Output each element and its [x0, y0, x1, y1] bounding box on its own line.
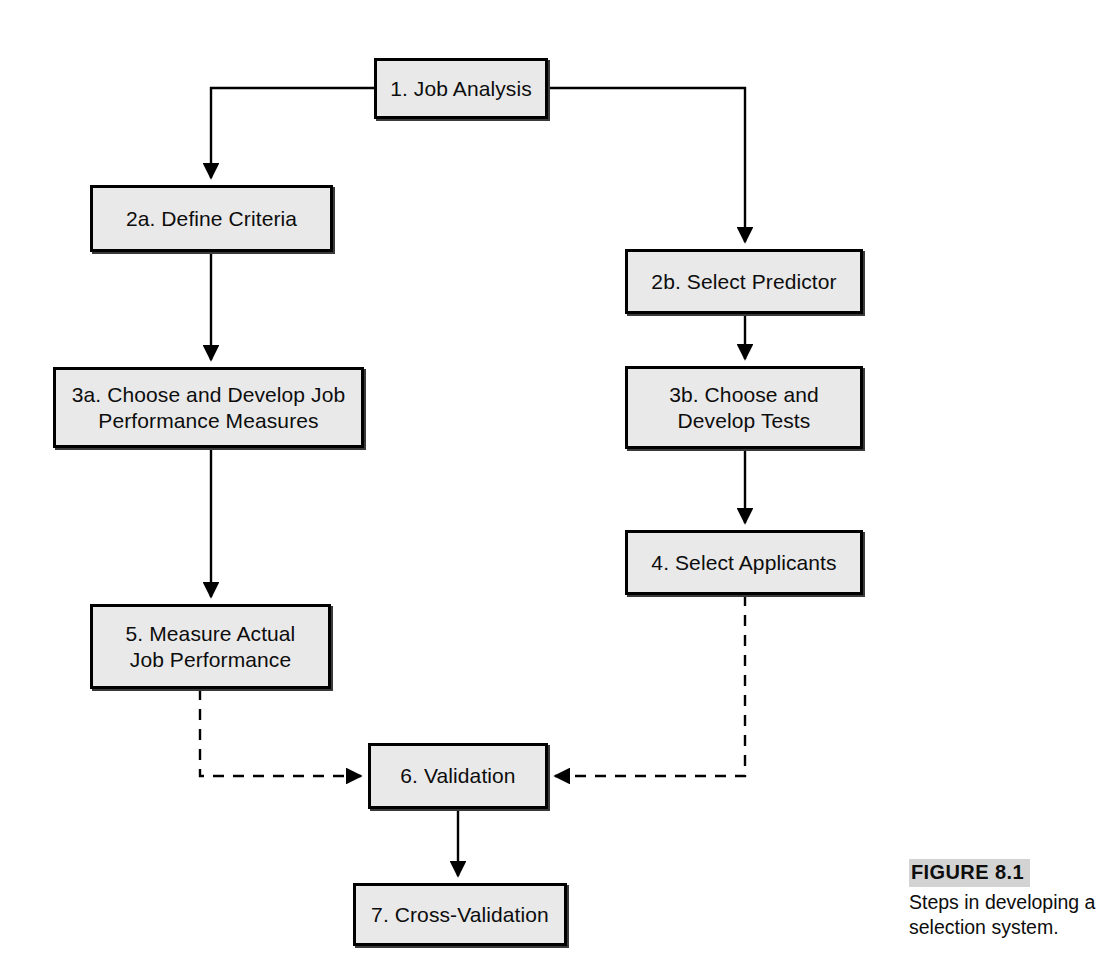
node-label: 2a. Define Criteria — [126, 206, 297, 232]
edge-4-to-6-dashed — [555, 595, 745, 776]
node-validation[interactable]: 6. Validation — [368, 743, 548, 809]
flowchart-connectors — [0, 0, 1111, 972]
node-select-applicants[interactable]: 4. Select Applicants — [625, 530, 863, 595]
node-label: 4. Select Applicants — [651, 550, 836, 576]
node-label: 2b. Select Predictor — [651, 269, 836, 295]
figure-caption: FIGURE 8.1 Steps in developing a selecti… — [909, 859, 1104, 940]
node-choose-develop-job-performance-measures[interactable]: 3a. Choose and Develop Job Performance M… — [53, 367, 364, 448]
node-label: 5. Measure Actual Job Performance — [126, 621, 296, 672]
edge-1-to-2a — [211, 88, 374, 178]
node-choose-develop-tests[interactable]: 3b. Choose and Develop Tests — [625, 366, 863, 449]
node-define-criteria[interactable]: 2a. Define Criteria — [90, 185, 333, 252]
node-label: 1. Job Analysis — [390, 76, 532, 102]
figure-container: 1. Job Analysis 2a. Define Criteria 3a. … — [0, 0, 1111, 972]
figure-caption-title: FIGURE 8.1 — [909, 859, 1030, 887]
node-measure-actual-job-performance[interactable]: 5. Measure Actual Job Performance — [90, 604, 331, 689]
node-label: 7. Cross-Validation — [371, 902, 549, 928]
figure-caption-text: Steps in developing a selection system. — [909, 890, 1104, 940]
edge-5-to-6-dashed — [200, 689, 361, 776]
node-job-analysis[interactable]: 1. Job Analysis — [374, 58, 548, 119]
node-select-predictor[interactable]: 2b. Select Predictor — [625, 249, 863, 314]
node-label: 3b. Choose and Develop Tests — [669, 382, 819, 433]
node-label: 6. Validation — [400, 763, 515, 789]
node-label: 3a. Choose and Develop Job Performance M… — [72, 382, 345, 433]
node-cross-validation[interactable]: 7. Cross-Validation — [353, 883, 567, 946]
edge-1-to-2b — [548, 88, 745, 242]
